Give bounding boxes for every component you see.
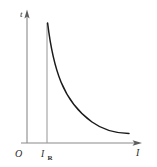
x-axis-label: I: [135, 147, 140, 158]
origin-label: O: [15, 148, 22, 159]
figure-container: t I O I R: [0, 0, 157, 167]
tick-label-ir-subscript: R: [48, 154, 54, 162]
x-axis: [21, 140, 142, 146]
y-axis: [24, 10, 29, 144]
tick-label-ir: I R: [40, 149, 54, 162]
inverse-time-characteristic-chart: t I O I R: [0, 0, 157, 167]
y-axis-label: t: [20, 9, 23, 19]
decay-curve: [48, 23, 129, 134]
tick-label-ir-main: I: [40, 149, 45, 159]
